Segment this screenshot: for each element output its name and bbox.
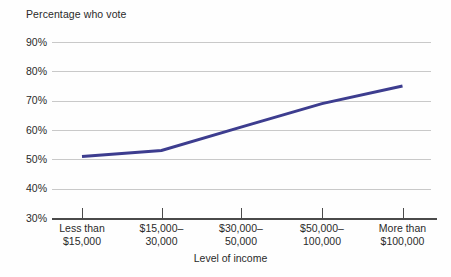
x-axis-title-wrap: Level of income	[0, 252, 451, 264]
series-line-percentage-who-vote	[82, 86, 403, 156]
data-series-layer	[0, 0, 451, 277]
chart-figure: Percentage who vote 90%80%70%60%50%40%30…	[0, 0, 451, 277]
x-axis-title: Level of income	[194, 252, 268, 264]
